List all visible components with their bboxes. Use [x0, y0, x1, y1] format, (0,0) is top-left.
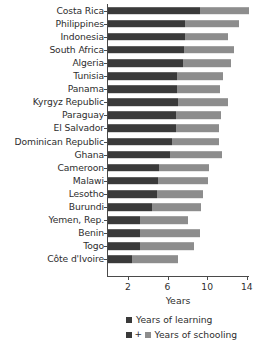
x-tick-label: 14	[241, 281, 253, 292]
category-label: Dominican Republic	[15, 137, 104, 147]
stacked-bar	[108, 216, 188, 224]
x-tick-label: 10	[201, 281, 213, 292]
stacked-bar	[108, 203, 201, 211]
bar-segment-schooling	[170, 151, 223, 159]
y-tick-mark	[104, 11, 108, 12]
category-label: Kyrgyz Republic	[33, 97, 104, 107]
stacked-bar-chart: Costa RicaPhilippinesIndonesiaSouth Afri…	[0, 0, 263, 347]
stacked-bar	[108, 229, 200, 237]
bar-segment-learning	[108, 177, 158, 185]
stacked-bar	[108, 151, 222, 159]
y-tick-mark	[104, 259, 108, 260]
chart-row: Ghana	[0, 148, 263, 161]
chart-row: Lesotho	[0, 187, 263, 200]
chart-row: Benin	[0, 227, 263, 240]
y-axis-spine	[107, 4, 108, 276]
bar-segment-learning	[108, 72, 177, 80]
stacked-bar	[108, 164, 209, 172]
category-label: Panama	[68, 84, 104, 94]
plot-area: Costa RicaPhilippinesIndonesiaSouth Afri…	[0, 0, 263, 276]
bar-segment-schooling	[172, 138, 219, 146]
stacked-bar	[108, 112, 221, 120]
chart-row: Costa Rica	[0, 4, 263, 17]
legend-label-learning: Years of learning	[136, 314, 212, 325]
y-tick-mark	[104, 207, 108, 208]
y-tick-mark	[104, 89, 108, 90]
legend-plus-sign: +	[135, 330, 143, 339]
x-tick-label: 6	[165, 281, 171, 292]
legend-item-schooling: + Years of schooling	[0, 327, 263, 342]
chart-row: Kyrgyz Republic	[0, 96, 263, 109]
x-tick-mark	[168, 276, 169, 280]
stacked-bar	[108, 125, 219, 133]
category-label: El Salvador	[54, 123, 105, 133]
stacked-bar	[108, 33, 228, 41]
x-tick-mark	[207, 276, 208, 280]
x-tick-label: 2	[125, 281, 131, 292]
y-tick-mark	[104, 63, 108, 64]
category-label: Paraguay	[62, 110, 104, 120]
chart-row: El Salvador	[0, 122, 263, 135]
legend-item-learning: Years of learning	[0, 312, 263, 327]
category-label: Indonesia	[60, 32, 104, 42]
y-tick-mark	[104, 37, 108, 38]
y-tick-mark	[104, 142, 108, 143]
chart-row: Côte d'Ivoire	[0, 253, 263, 266]
bar-segment-schooling	[140, 216, 189, 224]
bar-segment-learning	[108, 20, 185, 28]
bar-segment-schooling	[200, 7, 249, 15]
stacked-bar	[108, 72, 223, 80]
y-tick-mark	[104, 24, 108, 25]
bar-segment-learning	[108, 164, 159, 172]
bar-segment-learning	[108, 112, 176, 120]
bar-segment-learning	[108, 243, 140, 251]
y-tick-mark	[104, 194, 108, 195]
chart-row: South Africa	[0, 43, 263, 56]
bar-segment-learning	[108, 98, 178, 106]
legend-label-schooling: Years of schooling	[155, 329, 238, 340]
chart-row: Philippines	[0, 17, 263, 30]
stacked-bar	[108, 7, 249, 15]
chart-row: Malawi	[0, 174, 263, 187]
x-axis-title: Years	[166, 295, 191, 306]
chart-row: Cameroon	[0, 161, 263, 174]
y-tick-mark	[104, 50, 108, 51]
chart-row: Yemen, Rep.	[0, 214, 263, 227]
category-label: Ghana	[74, 150, 104, 160]
chart-row: Indonesia	[0, 30, 263, 43]
category-label: Costa Rica	[56, 6, 104, 16]
y-tick-mark	[104, 181, 108, 182]
category-label: Philippines	[56, 19, 104, 29]
bar-segment-learning	[108, 138, 172, 146]
bar-segment-learning	[108, 203, 152, 211]
bar-segment-schooling	[177, 85, 220, 93]
bar-segment-schooling	[152, 203, 202, 211]
stacked-bar	[108, 256, 178, 264]
bar-segment-schooling	[185, 20, 239, 28]
bar-segment-learning	[108, 46, 184, 54]
stacked-bar	[108, 98, 228, 106]
bar-segment-schooling	[178, 98, 228, 106]
bar-segment-learning	[108, 59, 183, 67]
category-label: Malawi	[73, 176, 104, 186]
chart-legend: Years of learning + Years of schooling	[0, 312, 263, 342]
y-tick-mark	[104, 168, 108, 169]
bar-segment-schooling	[176, 125, 219, 133]
bar-segment-schooling	[132, 256, 179, 264]
category-label: Algeria	[72, 58, 104, 68]
stacked-bar	[108, 20, 239, 28]
chart-row: Paraguay	[0, 109, 263, 122]
y-tick-mark	[104, 102, 108, 103]
chart-row: Togo	[0, 240, 263, 253]
bar-segment-learning	[108, 229, 140, 237]
bar-segment-schooling	[183, 59, 231, 67]
bar-segment-schooling	[157, 190, 204, 198]
bar-segment-schooling	[176, 112, 221, 120]
bar-segment-schooling	[158, 177, 209, 185]
category-label: Tunisia	[73, 71, 104, 81]
bar-segment-learning	[108, 190, 157, 198]
category-label: South Africa	[49, 45, 104, 55]
stacked-bar	[108, 59, 231, 67]
stacked-bar	[108, 190, 203, 198]
legend-swatch-schooling-light-icon	[145, 332, 151, 338]
